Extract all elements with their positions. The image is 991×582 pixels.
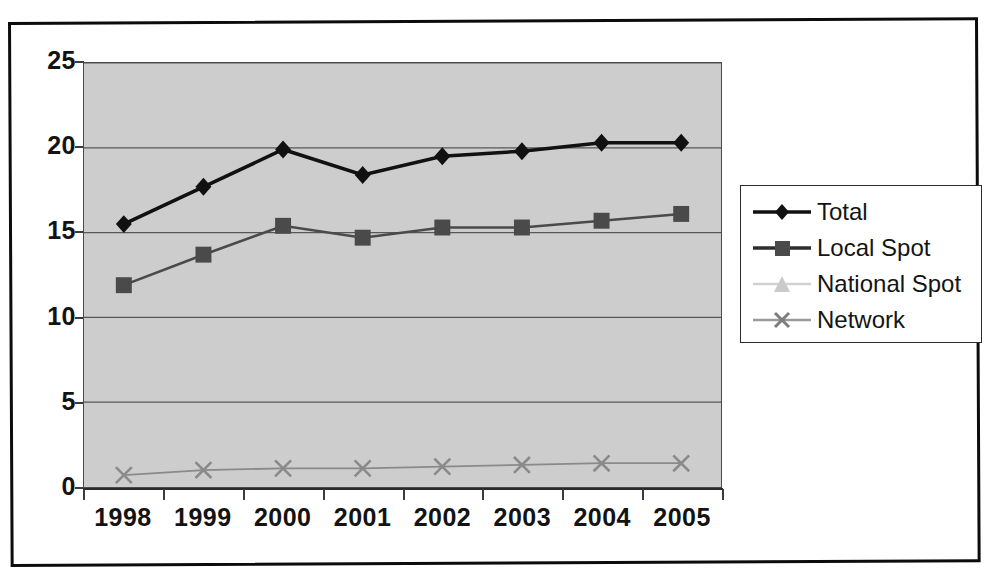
y-axis-tick-label: 20 (14, 133, 76, 158)
x-axis-tick-label: 2004 (557, 505, 647, 530)
x-axis-tick-mark (243, 489, 245, 500)
x-axis-tick-mark (163, 489, 165, 500)
legend-label-network: Network (817, 308, 905, 332)
square-marker-icon (751, 235, 813, 261)
diamond-marker-icon (751, 199, 813, 225)
x-axis-tick-mark (83, 489, 85, 500)
x-axis-tick-label: 1998 (78, 505, 168, 530)
data-point-marker (195, 178, 211, 196)
legend-item-local-spot[interactable]: Local Spot (751, 230, 981, 266)
data-point-marker (594, 213, 610, 229)
x-axis-tick-mark (403, 489, 405, 500)
data-point-marker (116, 215, 132, 233)
data-point-marker (514, 142, 530, 160)
y-axis-tick-label: 15 (14, 218, 76, 243)
data-point-marker (673, 206, 689, 222)
data-point-marker (116, 277, 132, 293)
legend-label-local-spot: Local Spot (817, 236, 930, 260)
legend-label-national-spot: National Spot (817, 272, 961, 296)
x-axis-tick-label: 1999 (158, 505, 248, 530)
legend-item-national-spot[interactable]: National Spot (751, 266, 981, 302)
data-point-marker (275, 218, 291, 234)
data-point-marker (355, 166, 371, 184)
series-local-spot (116, 206, 689, 293)
data-point-marker (355, 230, 371, 246)
series-network (116, 455, 689, 483)
x-axis-tick-label: 2005 (637, 505, 727, 530)
triangle-marker-icon (751, 271, 813, 297)
data-point-marker (195, 247, 211, 263)
data-point-marker (673, 134, 689, 152)
x-axis-tick-label: 2000 (238, 505, 328, 530)
chart-page: 2520151050 19981999200020012002200320042… (0, 0, 991, 582)
x-axis-tick-mark (482, 489, 484, 500)
legend-item-network[interactable]: Network (751, 302, 981, 338)
legend-item-total[interactable]: Total (751, 194, 981, 230)
x-marker-icon (751, 307, 813, 333)
y-axis-tick-label: 25 (14, 48, 76, 73)
x-axis-tick-label: 2001 (318, 505, 408, 530)
y-axis-tick-label: 10 (14, 304, 76, 329)
data-point-marker (275, 141, 291, 159)
plot-svg (84, 63, 721, 487)
data-point-marker (514, 220, 530, 236)
x-axis-tick-mark (642, 489, 644, 500)
x-axis-tick-label: 2003 (477, 505, 567, 530)
data-point-marker (594, 134, 610, 152)
x-axis-tick-mark (562, 489, 564, 500)
x-axis-tick-mark (323, 489, 325, 500)
data-point-marker (434, 220, 450, 236)
data-point-marker (434, 147, 450, 165)
legend-label-total: Total (817, 200, 868, 224)
plot-area (83, 62, 722, 488)
x-axis-tick-label: 2002 (397, 505, 487, 530)
chart-legend: Total Local Spot Nationa (740, 185, 982, 343)
y-axis-tick-label: 5 (14, 389, 76, 414)
line-chart: 2520151050 19981999200020012002200320042… (0, 0, 991, 582)
y-axis-tick-label: 0 (14, 474, 76, 499)
x-axis-tick-mark (722, 489, 724, 500)
